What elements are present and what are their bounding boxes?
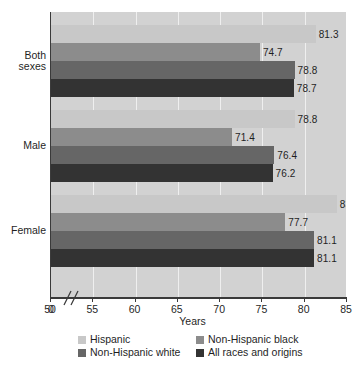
bar xyxy=(51,43,260,61)
legend-item[interactable]: Hispanic xyxy=(78,333,196,346)
legend-label: Non-Hispanic white xyxy=(90,347,180,358)
x-tick xyxy=(304,297,305,302)
bar-value-label: 81.1 xyxy=(317,253,337,264)
bar-row: 81.1 xyxy=(51,249,346,267)
bar-row: 78.7 xyxy=(51,79,346,97)
bar-value-label: 74.7 xyxy=(263,47,283,58)
bar xyxy=(51,146,274,164)
bar-value-label: 78.7 xyxy=(297,83,317,94)
legend-swatch xyxy=(196,349,204,357)
bar xyxy=(51,110,295,128)
bar xyxy=(51,195,337,213)
bar-row: 81.1 xyxy=(51,231,346,249)
legend-swatch xyxy=(78,336,86,344)
category-label: Male xyxy=(0,140,46,152)
bar-value-label: 81.3 xyxy=(319,29,339,40)
category-label: Female xyxy=(0,225,46,237)
bar xyxy=(51,25,316,43)
x-tick-label: 75 xyxy=(256,303,268,315)
bar-value-label: 76.4 xyxy=(277,150,297,161)
x-tick xyxy=(177,297,178,302)
legend-label: Hispanic xyxy=(90,334,130,345)
x-tick xyxy=(135,297,136,302)
bar-group: 83.877.781.181.1 xyxy=(51,195,346,267)
x-tick-label: 80 xyxy=(298,303,310,315)
legend-swatch xyxy=(196,336,204,344)
x-tick xyxy=(346,297,347,302)
legend: HispanicNon-Hispanic blackNon-Hispanic w… xyxy=(78,333,346,359)
x-tick-label: 85 xyxy=(340,303,352,315)
bar-value-label: 78.8 xyxy=(298,65,318,76)
x-axis-line xyxy=(50,297,346,299)
legend-label: Non-Hispanic black xyxy=(208,334,298,345)
x-axis-title-text: Years xyxy=(179,315,205,327)
bar-value-label: 81.1 xyxy=(317,235,337,246)
x-tick-label: 65 xyxy=(171,303,183,315)
bar-value-label: 78.8 xyxy=(298,114,318,125)
plot-area: 81.374.778.878.778.871.476.476.283.877.7… xyxy=(50,12,346,297)
x-tick xyxy=(261,297,262,302)
bar xyxy=(51,231,314,249)
legend-label: All races and origins xyxy=(208,347,303,358)
x-axis-title: Years xyxy=(0,315,359,327)
bar-row: 78.8 xyxy=(51,61,346,79)
bar-value-label: 76.2 xyxy=(276,168,296,179)
bar-value-label: 83.8 xyxy=(340,199,346,210)
category-label-line: Male xyxy=(0,140,46,152)
x-tick xyxy=(50,297,51,302)
bar xyxy=(51,249,314,267)
bar xyxy=(51,213,285,231)
axis-break-icon xyxy=(60,290,86,306)
x-tick-label: 70 xyxy=(213,303,225,315)
x-tick xyxy=(92,297,93,302)
x-tick-label: 60 xyxy=(129,303,141,315)
category-label: Bothsexes xyxy=(0,50,46,73)
x-tick xyxy=(219,297,220,302)
bar xyxy=(51,61,295,79)
category-label-line: Female xyxy=(0,225,46,237)
legend-item[interactable]: Non-Hispanic black xyxy=(196,333,346,346)
bar-row: 71.4 xyxy=(51,128,346,146)
bar-row: 74.7 xyxy=(51,43,346,61)
legend-item[interactable]: Non-Hispanic white xyxy=(78,346,196,359)
bar xyxy=(51,79,294,97)
bar-chart: 81.374.778.878.778.871.476.476.283.877.7… xyxy=(0,0,359,367)
category-label-line: sexes xyxy=(0,61,46,73)
bar-value-label: 77.7 xyxy=(288,217,308,228)
x-tick-label: 55 xyxy=(86,303,98,315)
bar-row: 77.7 xyxy=(51,213,346,231)
bar-row: 76.2 xyxy=(51,164,346,182)
legend-swatch xyxy=(78,349,86,357)
bar-row: 76.4 xyxy=(51,146,346,164)
bar-row: 78.8 xyxy=(51,110,346,128)
bar-row: 81.3 xyxy=(51,25,346,43)
bar-value-label: 71.4 xyxy=(235,132,255,143)
legend-item[interactable]: All races and origins xyxy=(196,346,346,359)
bar xyxy=(51,164,273,182)
bar-group: 81.374.778.878.7 xyxy=(51,25,346,97)
x-tick-label: 50 xyxy=(44,303,56,315)
bar xyxy=(51,128,232,146)
bar-row: 83.8 xyxy=(51,195,346,213)
bar-group: 78.871.476.476.2 xyxy=(51,110,346,182)
bar-groups: 81.374.778.878.778.871.476.476.283.877.7… xyxy=(51,12,346,297)
